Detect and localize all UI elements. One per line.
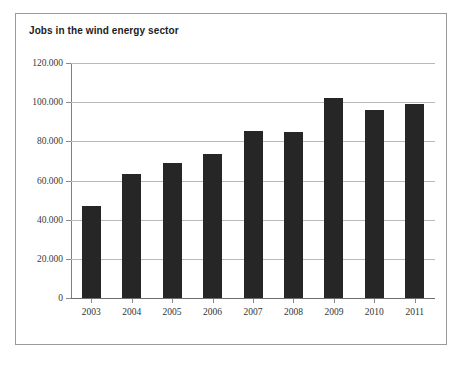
y-tick-mark bbox=[66, 141, 71, 142]
x-axis-label: 2003 bbox=[82, 307, 101, 317]
bar bbox=[405, 104, 424, 298]
x-tick-mark bbox=[374, 299, 375, 303]
bar bbox=[203, 154, 222, 298]
y-axis-label: 80.000 bbox=[37, 136, 63, 146]
x-axis-label: 2006 bbox=[203, 307, 222, 317]
x-tick-mark bbox=[415, 299, 416, 303]
x-axis-label: 2007 bbox=[244, 307, 263, 317]
y-tick-mark bbox=[66, 298, 71, 299]
y-tick-mark bbox=[66, 181, 71, 182]
bar bbox=[122, 174, 141, 298]
bar bbox=[82, 206, 101, 298]
bar bbox=[244, 131, 263, 298]
y-axis-label: 100.000 bbox=[32, 97, 63, 107]
x-axis-label: 2005 bbox=[163, 307, 182, 317]
chart-frame: Jobs in the wind energy sector 020.00040… bbox=[15, 13, 447, 345]
y-axis-label: 20.000 bbox=[37, 254, 63, 264]
y-tick-mark bbox=[66, 220, 71, 221]
bar bbox=[365, 110, 384, 298]
bar bbox=[284, 132, 303, 298]
bar bbox=[324, 98, 343, 298]
y-tick-mark bbox=[66, 102, 71, 103]
x-tick-mark bbox=[213, 299, 214, 303]
x-axis-label: 2004 bbox=[122, 307, 141, 317]
y-axis-label: 60.000 bbox=[37, 176, 63, 186]
x-tick-mark bbox=[172, 299, 173, 303]
x-tick-mark bbox=[334, 299, 335, 303]
x-tick-mark bbox=[132, 299, 133, 303]
bar bbox=[163, 163, 182, 298]
y-tick-mark bbox=[66, 259, 71, 260]
x-axis-label: 2010 bbox=[365, 307, 384, 317]
gridline bbox=[71, 102, 435, 103]
x-tick-mark bbox=[91, 299, 92, 303]
x-tick-mark bbox=[253, 299, 254, 303]
chart-title: Jobs in the wind energy sector bbox=[29, 25, 179, 36]
x-axis-label: 2011 bbox=[405, 307, 424, 317]
gridline bbox=[71, 63, 435, 64]
y-axis-label: 40.000 bbox=[37, 215, 63, 225]
x-tick-mark bbox=[293, 299, 294, 303]
y-tick-mark bbox=[66, 63, 71, 64]
y-axis-label: 120.000 bbox=[32, 58, 63, 68]
y-axis-label: 0 bbox=[58, 293, 63, 303]
x-axis-label: 2009 bbox=[324, 307, 343, 317]
plot-area: 020.00040.00060.00080.000100.000120.000 … bbox=[71, 63, 435, 298]
x-axis-label: 2008 bbox=[284, 307, 303, 317]
